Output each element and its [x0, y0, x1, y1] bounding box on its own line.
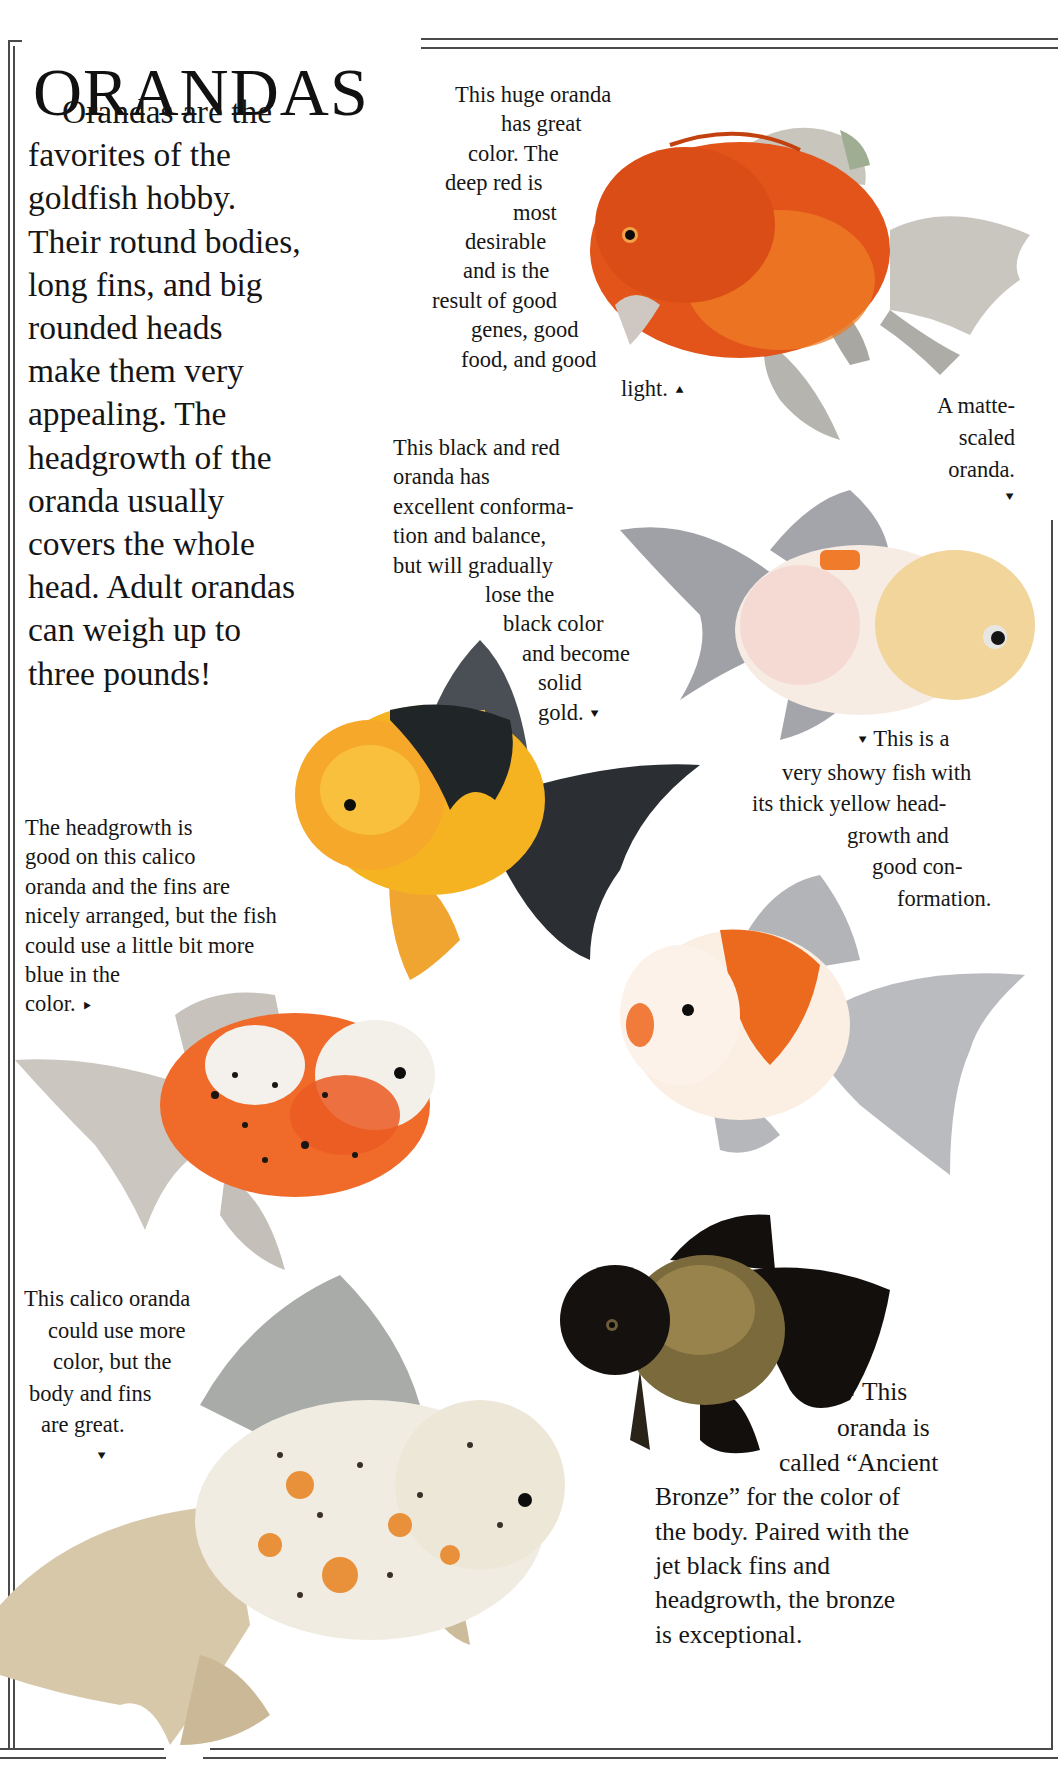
caption-line: light. ⯅ — [428, 374, 668, 406]
bottom-rule-outer-left — [0, 1757, 166, 1759]
caption-line: desirable — [428, 227, 668, 256]
caption-line: This black and red — [393, 433, 673, 462]
caption-calico-headgrowth: The headgrowth is good on this calico or… — [25, 813, 365, 1021]
caption-line: good on this calico — [25, 842, 365, 871]
arrow-down-icon: ⯆ — [589, 700, 600, 729]
caption-line-text: gold. — [538, 700, 584, 725]
caption-line-text: light. — [621, 376, 668, 401]
top-left-corner-stub — [8, 40, 22, 42]
intro-line: Orandas are the — [28, 90, 368, 133]
caption-ancient-bronze: ⯇ This oranda is called “Ancient Bronze”… — [655, 1375, 1005, 1652]
caption-line: are great. — [24, 1409, 254, 1441]
caption-line: oranda. — [905, 454, 1015, 486]
caption-line: The headgrowth is — [25, 813, 365, 842]
fish-calico-photo — [15, 985, 445, 1275]
top-rule-inner — [421, 47, 1058, 49]
intro-line: make them very — [28, 349, 368, 392]
caption-line: blue in the — [25, 960, 365, 989]
caption-line: genes, good — [428, 315, 668, 344]
caption-line: could use a little bit more — [25, 931, 365, 960]
intro-line: head. Adult orandas — [28, 565, 368, 608]
caption-line: oranda has — [393, 462, 673, 491]
caption-showy-yellow: ⯆ This is a very showy fish with its thi… — [752, 723, 1042, 914]
caption-line: black color — [393, 609, 673, 638]
caption-calico-more-color: This calico oranda could use more color,… — [24, 1283, 254, 1472]
caption-line: tion and balance, — [393, 521, 673, 550]
caption-line: scaled — [905, 422, 1015, 454]
arrow-down-icon: ⯆ — [905, 486, 1015, 510]
caption-line: This calico oranda — [24, 1283, 254, 1315]
caption-line: formation. — [752, 883, 1042, 915]
caption-line-text: This is a — [873, 726, 949, 751]
caption-line: solid — [393, 668, 673, 697]
caption-line: color. ⯈ — [25, 989, 365, 1021]
caption-line: ⯆ This is a — [752, 723, 1042, 757]
caption-line: its thick yellow head- — [752, 788, 1042, 820]
caption-line: deep red is — [428, 168, 668, 197]
caption-line: very showy fish with — [752, 757, 1042, 789]
caption-line: This huge oranda — [428, 80, 668, 109]
caption-line: headgrowth, the bronze — [655, 1583, 1005, 1617]
arrow-right-icon: ⯈ — [81, 992, 92, 1021]
caption-line: good con- — [752, 851, 1042, 883]
caption-line: jet black fins and — [655, 1549, 1005, 1583]
intro-line: goldfish hobby. — [28, 176, 368, 219]
caption-line: called “Ancient — [655, 1446, 1005, 1480]
caption-huge-red-oranda: This huge oranda has great color. The de… — [428, 80, 668, 406]
caption-line: nicely arranged, but the fish — [25, 901, 365, 930]
intro-line: rounded heads — [28, 306, 368, 349]
caption-black-and-red: This black and red oranda has excellent … — [393, 433, 673, 729]
caption-line: could use more — [24, 1315, 254, 1347]
intro-line: long fins, and big — [28, 263, 368, 306]
bottom-rule-outer-right — [203, 1757, 1058, 1759]
intro-line: appealing. The — [28, 392, 368, 435]
intro-line: favorites of the — [28, 133, 368, 176]
top-rule-outer — [421, 38, 1058, 40]
caption-line: has great — [428, 109, 668, 138]
caption-line-text: color. — [25, 991, 76, 1016]
caption-line: and become — [393, 639, 673, 668]
caption-line: but will gradually — [393, 551, 673, 580]
caption-line: oranda and the fins are — [25, 872, 365, 901]
caption-line: growth and — [752, 820, 1042, 852]
caption-line: the body. Paired with the — [655, 1515, 1005, 1549]
caption-line: gold. ⯆ — [393, 698, 673, 730]
arrow-left-icon: ⯇ — [845, 1377, 856, 1411]
caption-line: result of good — [428, 286, 668, 315]
arrow-down-icon: ⯆ — [857, 725, 868, 757]
caption-line: oranda is — [655, 1411, 1005, 1445]
caption-line: body and fins — [24, 1378, 254, 1410]
caption-line: is exceptional. — [655, 1618, 1005, 1652]
intro-line: Their rotund bodies, — [28, 220, 368, 263]
right-border — [1051, 520, 1053, 1750]
caption-line: ⯇ This — [655, 1375, 1005, 1411]
caption-matte-scaled: A matte- scaled oranda. ⯆ — [905, 390, 1015, 510]
arrow-down-icon: ⯆ — [24, 1441, 254, 1473]
caption-line: food, and good — [428, 345, 668, 374]
intro-line: covers the whole — [28, 522, 368, 565]
intro-paragraph: Orandas are the favorites of the goldfis… — [28, 90, 368, 695]
arrow-up-icon: ⯅ — [674, 376, 685, 405]
intro-line: headgrowth of the — [28, 436, 368, 479]
caption-line: excellent conforma- — [393, 492, 673, 521]
caption-line: A matte- — [905, 390, 1015, 422]
caption-line: Bronze” for the color of — [655, 1480, 1005, 1514]
caption-line: most — [428, 198, 668, 227]
fish-showy-yellow-photo — [620, 875, 1030, 1175]
caption-line: and is the — [428, 256, 668, 285]
intro-line: oranda usually — [28, 479, 368, 522]
caption-line: lose the — [393, 580, 673, 609]
caption-line: color. The — [428, 139, 668, 168]
caption-line-text: This — [862, 1377, 907, 1406]
caption-line: color, but the — [24, 1346, 254, 1378]
